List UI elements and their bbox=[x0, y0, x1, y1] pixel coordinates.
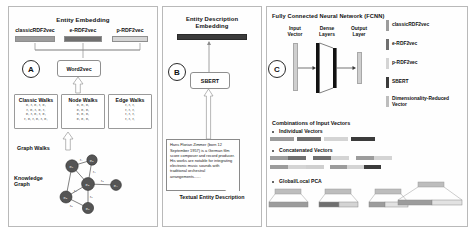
legend-label-classicrdf2vec: classicRDF2vec bbox=[392, 22, 429, 28]
walk-box-classic: Classic Walks e, r, e, r, e, r, e, r, e,… bbox=[14, 94, 58, 129]
description-box-fold-corner bbox=[225, 181, 239, 191]
walk-box-edge-row-3: r, r, r, bbox=[109, 118, 151, 122]
arrow-description-to-sbert bbox=[200, 88, 218, 140]
vector-seg-concat-1a bbox=[270, 156, 288, 160]
walk-box-classic-header: Classic Walks bbox=[15, 97, 57, 103]
line-sbert-to-embedding bbox=[206, 40, 212, 73]
nn-label-input-vector: Input Vector bbox=[280, 26, 310, 37]
graph-walks-label: Graph Walks bbox=[17, 145, 50, 151]
vector-seg-individual-1 bbox=[270, 137, 294, 141]
panel-b-letter-badge: B bbox=[168, 63, 186, 81]
group-label-pca: Global/Local PCA bbox=[279, 178, 322, 184]
walk-box-node: Node Walks e, e, e, e, e, e, e, e, e, e,… bbox=[61, 94, 105, 129]
knowledge-graph-diagram: e₁ e₂ e₃ e₄ e₅ e₆ r₁ r₂ r₃ r₄ r₅ r₆ bbox=[50, 150, 150, 220]
fcnn-diagram bbox=[297, 38, 361, 98]
arrow-walks-to-word2vec bbox=[70, 76, 88, 94]
walk-box-node-row-0: e, e, e, bbox=[62, 104, 104, 108]
vector-seg-concat-4b bbox=[288, 165, 306, 169]
knowledge-graph-label: Knowledge Graph bbox=[14, 175, 48, 188]
vector-seg-concat-3a bbox=[356, 156, 374, 160]
vector-seg-concat-5a bbox=[330, 165, 347, 169]
panel-a-connector-tree bbox=[8, 40, 158, 62]
vector-seg-concat-2a bbox=[313, 156, 331, 160]
panel-a-letter-badge: A bbox=[22, 60, 40, 78]
vector-seg-individual-2 bbox=[297, 137, 321, 141]
nn-label-dense-layers: Dense Layers bbox=[312, 26, 342, 37]
panel-c-title: Fully Connected Neural Network (FCNN) bbox=[268, 13, 470, 19]
entity-description-text: Hans Florian Zimmer (born 12 September 1… bbox=[170, 142, 236, 178]
walk-box-edge-header: Edge Walks bbox=[109, 97, 151, 103]
legend-label-prdf2vec: p-RDF2vec bbox=[392, 60, 418, 66]
word2vec-label: Word2vec bbox=[66, 66, 91, 72]
pca-trapezoid-2 bbox=[318, 187, 364, 209]
svg-text:e₃: e₃ bbox=[86, 182, 90, 187]
svg-text:r₅: r₅ bbox=[70, 204, 73, 208]
figure-root: Entity Embedding classicRDF2vec e-RDF2ve… bbox=[0, 0, 476, 233]
svg-text:e₅: e₅ bbox=[64, 195, 68, 200]
column-label-prdf2vec: p-RDF2vec bbox=[108, 27, 152, 33]
vector-seg-concat-1b bbox=[288, 156, 306, 160]
column-label-classicrdf2vec: classicRDF2vec bbox=[12, 27, 58, 33]
legend-label-dimensionality-reduced: Dimensionality-Reduced Vector bbox=[392, 96, 464, 107]
arrow-graph-to-walks bbox=[60, 131, 78, 151]
svg-text:r₃: r₃ bbox=[101, 179, 104, 183]
entity-description-embedding-bar bbox=[177, 34, 247, 40]
group-label-individual-vectors: Individual Vectors bbox=[279, 128, 323, 134]
sbert-label: SBERT bbox=[201, 78, 219, 84]
walk-box-node-header: Node Walks bbox=[62, 97, 104, 103]
group-label-concatenated-vectors: Concatenated Vectors bbox=[279, 147, 333, 153]
svg-text:e₆: e₆ bbox=[86, 206, 90, 211]
panel-c-letter-badge: C bbox=[268, 60, 286, 78]
legend-label-erdf2vec: e-RDF2vec bbox=[392, 41, 417, 47]
nn-label-output-layer: Output Layer bbox=[344, 26, 374, 37]
column-label-erdf2vec: e-RDF2vec bbox=[63, 27, 103, 33]
pca-trapezoid-1 bbox=[268, 187, 314, 209]
panel-b-caption: Textual Entity Description bbox=[162, 194, 262, 200]
vector-seg-concat-4a bbox=[270, 165, 288, 169]
pca-trapezoid-4 bbox=[396, 180, 464, 208]
walk-box-node-row-3: e, e, e, bbox=[62, 118, 104, 122]
legend-label-sbert: SBERT bbox=[392, 79, 409, 85]
walk-box-edge: Edge Walks r, r, r, r, r, r, r, r, r, r,… bbox=[108, 94, 152, 129]
vector-seg-individual-4 bbox=[351, 137, 375, 141]
vector-seg-concat-4c bbox=[306, 165, 324, 169]
walk-box-edge-row-0: r, r, r, bbox=[109, 104, 151, 108]
legend-swatch-erdf2vec bbox=[386, 39, 389, 50]
svg-text:e₄: e₄ bbox=[114, 183, 118, 188]
svg-text:r₁: r₁ bbox=[80, 158, 83, 162]
legend-swatch-dimensionality-reduced bbox=[386, 96, 389, 107]
legend-swatch-sbert bbox=[386, 77, 389, 88]
svg-text:r₂: r₂ bbox=[93, 170, 96, 174]
sbert-box: SBERT bbox=[190, 72, 230, 89]
legend-swatch-prdf2vec bbox=[386, 58, 389, 69]
panel-a-title: Entity Embedding bbox=[8, 16, 158, 23]
svg-text:r₆: r₆ bbox=[90, 195, 93, 199]
word2vec-box: Word2vec bbox=[57, 60, 101, 77]
vector-seg-concat-5c bbox=[364, 165, 381, 169]
svg-text:e₂: e₂ bbox=[90, 158, 94, 163]
vector-seg-concat-5b bbox=[347, 165, 364, 169]
legend-swatch-classicrdf2vec bbox=[386, 20, 389, 31]
vector-seg-concat-3b bbox=[374, 156, 392, 160]
vector-seg-concat-2b bbox=[331, 156, 349, 160]
walk-box-classic-row-0: e, r, e, r, e, bbox=[15, 104, 57, 108]
panel-b-title: Entity Description Embedding bbox=[162, 16, 262, 30]
vector-seg-individual-3 bbox=[324, 137, 348, 141]
combinations-title: Combinations of Input Vectors bbox=[272, 120, 350, 126]
walk-box-classic-row-3: r, e, r, e, r, e, bbox=[15, 118, 57, 122]
